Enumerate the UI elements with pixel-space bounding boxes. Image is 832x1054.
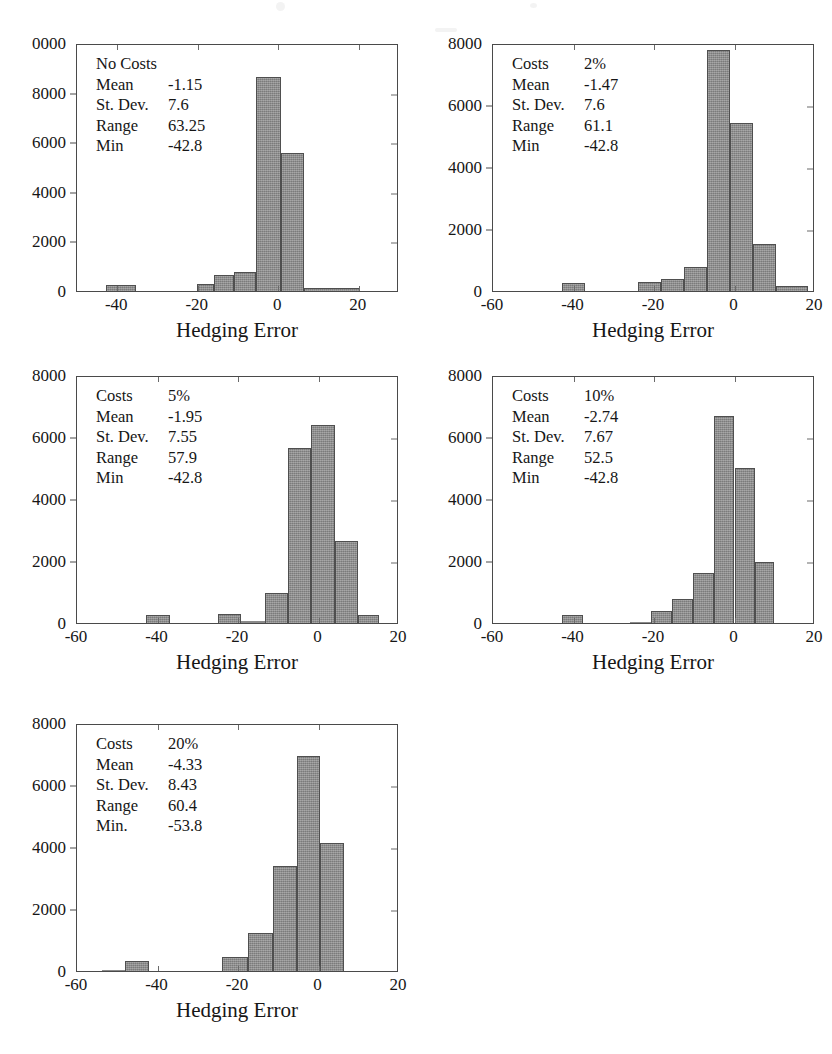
stats-box-panel-1: No CostsMean-1.15St. Dev.7.6Range63.25Mi… <box>96 54 205 157</box>
x-tick-mark-inner <box>238 966 239 971</box>
x-axis-title-panel-1: Hedging Error <box>76 318 398 343</box>
histogram-bar <box>222 957 248 971</box>
y-tick-label: 8000 <box>32 714 66 734</box>
stats-value: -53.8 <box>168 816 202 837</box>
y-tick-mark-inner <box>391 243 397 244</box>
x-tick-mark-top <box>158 377 159 382</box>
histogram-bar <box>125 961 148 971</box>
stats-box-panel-3: Costs5%Mean-1.95St. Dev.7.55Range57.9Min… <box>96 386 202 489</box>
histogram-bar <box>707 50 730 291</box>
histogram-bar <box>684 267 707 291</box>
x-tick-mark-inner <box>574 618 575 623</box>
stats-value: -42.8 <box>168 468 202 489</box>
x-tick-mark-inner <box>238 618 239 623</box>
stats-label: Costs <box>512 386 584 407</box>
y-tick-mark-inner <box>807 501 813 502</box>
y-tick-mark-inner <box>391 787 397 788</box>
y-tick-label: 6000 <box>32 428 66 448</box>
x-tick-mark-inner <box>654 286 655 291</box>
x-tick-mark-inner <box>158 618 159 623</box>
figure-page: 020004000600080000000 -40-20020 Hedging … <box>0 0 832 1054</box>
histogram-bar <box>241 621 264 623</box>
y-tick-mark-inner <box>807 107 813 108</box>
stats-row: Mean-1.95 <box>96 407 202 428</box>
y-tick-mark-inner <box>391 501 397 502</box>
stats-row: Range57.9 <box>96 448 202 469</box>
histogram-bar <box>106 285 136 291</box>
stats-value: 5% <box>168 386 190 407</box>
stats-label: Range <box>96 796 168 817</box>
x-tick-mark-top <box>319 725 320 730</box>
x-tick-label: 0 <box>273 295 282 315</box>
histogram-bar <box>630 622 651 624</box>
x-tick-mark-inner <box>735 618 736 623</box>
stats-title-text: No Costs <box>96 54 157 75</box>
stats-label: Costs <box>96 386 168 407</box>
stats-label: Min <box>512 136 584 157</box>
x-tick-mark-inner <box>278 286 279 291</box>
x-tick-mark-inner <box>574 286 575 291</box>
y-tick-label: 2000 <box>448 220 482 240</box>
stats-value: 63.25 <box>168 116 205 137</box>
x-tick-label: -60 <box>481 295 504 315</box>
stats-label: St. Dev. <box>96 427 168 448</box>
x-tick-label: 20 <box>390 975 407 995</box>
histogram-bar <box>753 244 776 291</box>
histogram-bar <box>735 468 756 623</box>
stats-label: Min <box>96 136 168 157</box>
stats-value: 7.55 <box>168 427 197 448</box>
x-axis-title-panel-3: Hedging Error <box>76 650 398 675</box>
stats-row: Costs5% <box>96 386 202 407</box>
y-tick-label: 4000 <box>32 838 66 858</box>
stats-box-panel-2: Costs2%Mean-1.47St. Dev.7.6Range61.1Min-… <box>512 54 618 157</box>
stats-value: 7.6 <box>168 95 189 116</box>
y-tick-mark-inner <box>391 911 397 912</box>
x-tick-label: 0 <box>313 975 322 995</box>
x-tick-mark-top <box>238 725 239 730</box>
stats-label: St. Dev. <box>512 427 584 448</box>
x-tick-mark-inner <box>198 286 199 291</box>
stats-label: Min <box>512 468 584 489</box>
stats-value: 60.4 <box>168 796 197 817</box>
y-tick-mark-inner <box>391 94 397 95</box>
histogram-bar <box>672 599 693 623</box>
x-tick-mark-top <box>238 377 239 382</box>
y-tick-label: 8000 <box>32 366 66 386</box>
stats-label: St. Dev. <box>96 775 168 796</box>
stats-row: Min-42.8 <box>96 136 205 157</box>
histogram-bar <box>661 279 684 291</box>
stats-row: Range52.5 <box>512 448 618 469</box>
stats-row: Costs2% <box>512 54 618 75</box>
scan-artifact <box>530 3 537 8</box>
stats-value: -42.8 <box>584 468 618 489</box>
stats-row: Costs10% <box>512 386 618 407</box>
histogram-panel-costs-20: 02000400060008000 -60-40-20020 Hedging E… <box>0 700 416 1040</box>
histogram-bar <box>311 425 334 623</box>
x-tick-label: -20 <box>642 295 665 315</box>
stats-row: Range61.1 <box>512 116 618 137</box>
histogram-panel-costs-10: 02000400060008000 -60-40-20020 Hedging E… <box>416 352 832 692</box>
histogram-bar <box>776 286 809 291</box>
y-tick-label: 4000 <box>448 490 482 510</box>
stats-value: 57.9 <box>168 448 197 469</box>
y-tick-label: 2000 <box>448 552 482 572</box>
x-tick-label: 20 <box>806 627 823 647</box>
stats-row: Mean-1.47 <box>512 75 618 96</box>
histogram-bar <box>693 573 714 623</box>
histogram-bar <box>297 756 320 971</box>
stats-row: St. Dev.7.55 <box>96 427 202 448</box>
y-tick-label: 4000 <box>32 183 66 203</box>
stats-row: Mean-1.15 <box>96 75 205 96</box>
stats-row: Min-42.8 <box>96 468 202 489</box>
y-tick-mark-inner <box>391 439 397 440</box>
x-tick-label: -20 <box>226 627 249 647</box>
stats-row: St. Dev.7.6 <box>96 95 205 116</box>
histogram-bar <box>358 615 379 623</box>
y-tick-label: 2000 <box>32 552 66 572</box>
y-tick-label: 6000 <box>32 133 66 153</box>
x-tick-mark-inner <box>319 966 320 971</box>
y-tick-mark-inner <box>807 439 813 440</box>
x-tick-mark-top <box>654 45 655 50</box>
stats-box-panel-4: Costs10%Mean-2.74St. Dev.7.67Range52.5Mi… <box>512 386 618 489</box>
x-tick-label: 20 <box>806 295 823 315</box>
